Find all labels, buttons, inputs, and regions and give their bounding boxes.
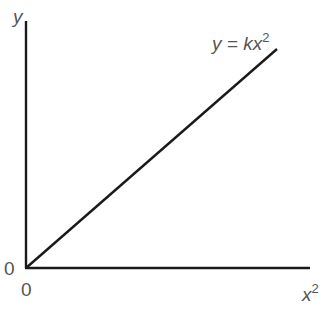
x-axis-label: x2	[301, 281, 319, 305]
y-axis-label: y	[11, 6, 24, 27]
proportionality-diagram: y y = kx2 0 0 x2	[0, 0, 327, 316]
origin-x-label: 0	[21, 279, 32, 300]
origin-y-label: 0	[4, 258, 15, 279]
line-equation-label: y = kx2	[210, 30, 269, 54]
proportional-line	[26, 49, 277, 268]
